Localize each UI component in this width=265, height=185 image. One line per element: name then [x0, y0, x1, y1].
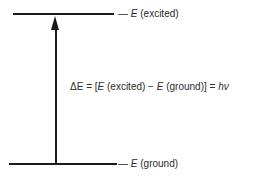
ground-text: (ground): [140, 158, 178, 169]
excited-level-label: — E (excited): [118, 8, 179, 20]
delta-e: ΔE: [70, 81, 83, 92]
excited-text: (excited): [140, 8, 178, 19]
ground-level-label: — E (ground): [118, 158, 178, 170]
eq-part: (excited) −: [104, 81, 157, 92]
photon-energy: hν: [218, 81, 229, 92]
energy-symbol: E: [131, 8, 138, 19]
energy-symbol: E: [131, 158, 138, 169]
excited-level-line: [13, 13, 114, 15]
energy-equation: ΔE = [E (excited) − E (ground)] = hν: [70, 81, 229, 93]
eq-part: (ground)] =: [163, 81, 218, 92]
ground-level-line: [9, 163, 117, 165]
eq-part: = [: [83, 81, 97, 92]
transition-arrow: [55, 28, 57, 164]
